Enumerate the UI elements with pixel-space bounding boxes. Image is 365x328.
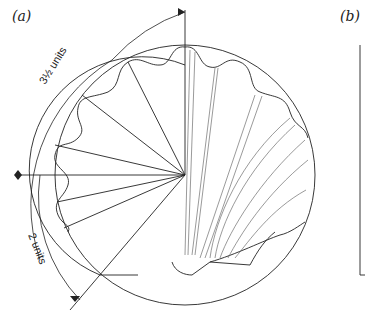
- panel-b-fragment: [360, 45, 365, 275]
- shell-construction-diagram: 3½ units 2 units: [0, 0, 365, 328]
- dimension-arc-top: [31, 60, 112, 260]
- dimension-arc-bottom: [38, 175, 80, 300]
- dimension-bottom-text: 2 units: [26, 231, 49, 266]
- inner-arc: [29, 57, 185, 275]
- dimension-top-text: 3½ units: [37, 44, 69, 86]
